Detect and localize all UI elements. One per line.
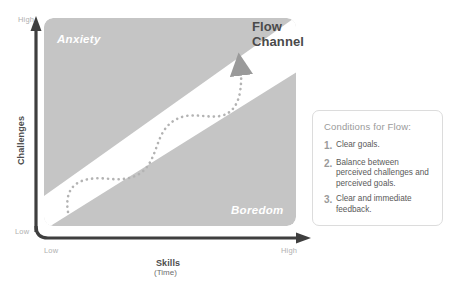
y-axis-high-tick: High: [18, 16, 34, 24]
x-axis-line: [36, 226, 300, 238]
x-axis-high-tick: High: [281, 247, 297, 255]
condition-number: 2.: [324, 158, 336, 171]
conditions-list: 1. Clear goals. 2. Balance between perce…: [324, 140, 433, 215]
condition-number: 1.: [324, 140, 336, 153]
condition-number: 3.: [324, 194, 336, 207]
x-axis-low-tick: Low: [44, 247, 58, 255]
x-axis-title: Skills: [156, 258, 180, 268]
list-item: 1. Clear goals.: [324, 140, 433, 153]
y-axis-title: Challenges: [16, 116, 26, 165]
condition-text: Balance between perceived challenges and…: [336, 158, 433, 190]
zone-label-anxiety: Anxiety: [57, 33, 101, 46]
x-axis-arrowhead: [296, 233, 311, 244]
conditions-for-flow-card: Conditions for Flow: 1. Clear goals. 2. …: [312, 110, 443, 226]
condition-text: Clear and immediate feedback.: [336, 194, 433, 215]
list-item: 2. Balance between perceived challenges …: [324, 158, 433, 190]
x-axis-subtitle: (Time): [154, 269, 177, 278]
zone-label-boredom: Boredom: [231, 204, 284, 217]
flow-channel-label: FlowChannel: [252, 19, 304, 50]
y-axis-low-tick: Low: [15, 228, 29, 236]
conditions-title: Conditions for Flow:: [324, 121, 433, 132]
list-item: 3. Clear and immediate feedback.: [324, 194, 433, 215]
condition-text: Clear goals.: [336, 140, 433, 151]
flow-channel-label-line1: Flow: [252, 19, 282, 34]
flow-channel-diagram: Anxiety Boredom FlowChannel High Low Cha…: [0, 0, 455, 287]
flow-channel-label-line2: Channel: [252, 34, 304, 49]
